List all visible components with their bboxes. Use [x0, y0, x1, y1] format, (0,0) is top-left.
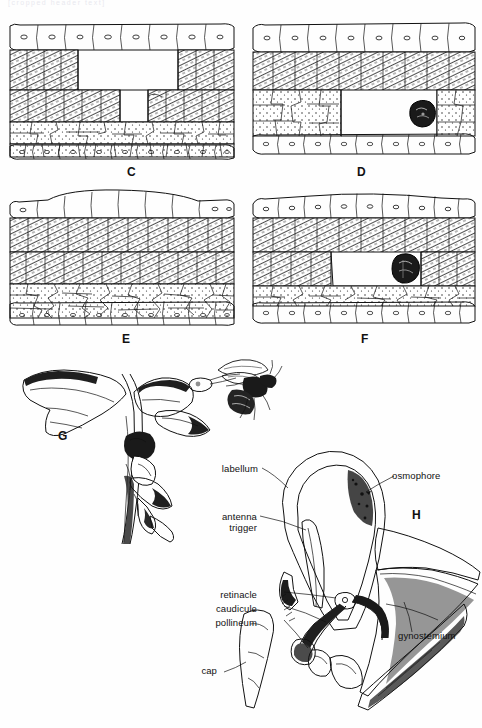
pollinium-mass-d — [410, 100, 436, 127]
panel-label-h: H — [412, 508, 421, 522]
panel-c-drawing — [8, 22, 236, 160]
pollinium-mass-f — [392, 254, 419, 283]
annotation-retinacle: retinacle — [175, 589, 257, 601]
flower-cap-g — [130, 478, 174, 542]
panel-f — [251, 188, 477, 328]
cropped-header-text: [cropped header text] — [8, 0, 106, 6]
panel-e-drawing — [8, 188, 236, 328]
bee-drawing — [174, 356, 280, 436]
panel-label-f: F — [361, 332, 369, 346]
panel-d — [251, 20, 477, 160]
panel-d-drawing — [251, 20, 477, 160]
bee-with-pollinium — [174, 356, 280, 436]
annotation-caudicule: caudicule — [175, 603, 257, 615]
osmophore-patch-h — [348, 470, 374, 526]
panel-label-c: C — [127, 165, 136, 179]
panel-label-e: E — [122, 332, 130, 346]
figure-canvas: [cropped header text] — [0, 0, 482, 728]
panel-f-drawing — [251, 188, 477, 328]
annotation-gynostemium: gynostemium — [398, 630, 482, 642]
panel-c — [8, 22, 236, 160]
flower-labellum-g — [23, 370, 126, 436]
annotation-labellum: labellum — [178, 463, 258, 475]
panel-e — [8, 188, 236, 328]
gynostemium-h — [358, 528, 480, 710]
labellum-basal-margin-h — [280, 572, 299, 621]
annotation-trigger: trigger — [175, 522, 257, 534]
panel-label-g: G — [58, 429, 68, 443]
panel-h-drawing — [226, 444, 482, 724]
panel-h — [226, 444, 482, 724]
annotation-osmophore: osmophore — [392, 470, 478, 482]
annotation-pollineum: pollineum — [175, 617, 257, 629]
annotation-cap: cap — [175, 665, 217, 677]
pollinarium-cluster-h — [291, 592, 389, 688]
annotation-antenna: antenna — [175, 511, 257, 523]
panel-label-d: D — [357, 165, 366, 179]
